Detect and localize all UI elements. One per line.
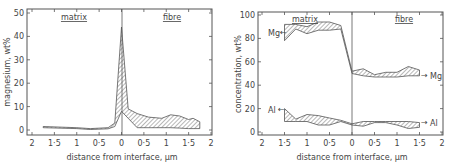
x-tick-label: 2 xyxy=(208,139,213,148)
x-tick-label: 2 xyxy=(259,139,264,148)
y-tick-label: 20 xyxy=(245,105,255,114)
y-tick-label: 50 xyxy=(14,9,24,18)
x-tick-label: 2 xyxy=(439,139,444,148)
x-tick-label: 0 xyxy=(119,139,124,148)
y-tick-label: 40 xyxy=(245,81,255,90)
y-tick-label: 0 xyxy=(19,126,24,135)
x-tick-label: 0 xyxy=(349,139,354,148)
y-tick-label: 20 xyxy=(14,79,24,88)
left-mg-band xyxy=(43,27,200,130)
x-tick-label: 1 xyxy=(164,139,169,148)
y-tick-label: 80 xyxy=(245,34,255,43)
x-tick-label: 0·5 xyxy=(93,139,106,148)
x-tick-label: 0·5 xyxy=(368,139,381,148)
x-tick-label: 1 xyxy=(74,139,79,148)
x-tick-label: 1·5 xyxy=(48,139,61,148)
x-tick-label: 1·5 xyxy=(182,139,195,148)
y-tick-label: 30 xyxy=(14,56,24,65)
mg-right-label: Mg xyxy=(430,72,442,81)
right-chart: 21·510·500·511·52020406080100 matrix fib… xyxy=(234,11,445,162)
band-mg-band xyxy=(43,27,200,130)
x-tick-label: 1 xyxy=(304,139,309,148)
figure: 21·510·500·511·5201020304050 matrix fibr… xyxy=(0,0,450,165)
right-y-axis-title: concentration, wt% xyxy=(234,35,243,113)
al-right-arrow: → xyxy=(421,118,428,127)
right-fibre-label: fibre xyxy=(395,15,413,24)
x-tick-label: 0·5 xyxy=(323,139,336,148)
x-tick-label: 0·5 xyxy=(138,139,151,148)
y-tick-label: 0 xyxy=(250,128,255,137)
al-right-label: Al xyxy=(430,119,438,128)
y-tick-label: 100 xyxy=(240,11,255,20)
y-tick-label: 10 xyxy=(14,103,24,112)
al-left-label: Al xyxy=(268,106,276,115)
chart-canvas: 21·510·500·511·5201020304050 matrix fibr… xyxy=(0,0,450,165)
y-tick-label: 40 xyxy=(14,32,24,41)
x-tick-label: 1 xyxy=(394,139,399,148)
al-left-arrow: ← xyxy=(278,105,285,114)
left-fibre-label: fibre xyxy=(163,13,181,22)
mg-right-arrow: → xyxy=(421,71,428,80)
x-tick-label: 2 xyxy=(29,139,34,148)
right-x-axis-title: distance from interface, µm xyxy=(296,153,407,162)
y-tick-label: 60 xyxy=(245,58,255,67)
x-tick-label: 1·5 xyxy=(278,139,291,148)
left-x-axis-title: distance from interface, µm xyxy=(66,153,177,162)
right-matrix-label: matrix xyxy=(292,15,318,24)
left-chart: 21·510·500·511·5201020304050 matrix fibr… xyxy=(3,9,214,162)
mg-left-arrow: ← xyxy=(280,28,287,37)
left-y-axis-title: magnesium, wt% xyxy=(3,37,12,107)
mg-left-label: Mg xyxy=(268,29,280,38)
left-matrix-label: matrix xyxy=(61,13,87,22)
x-tick-label: 1·5 xyxy=(413,139,426,148)
